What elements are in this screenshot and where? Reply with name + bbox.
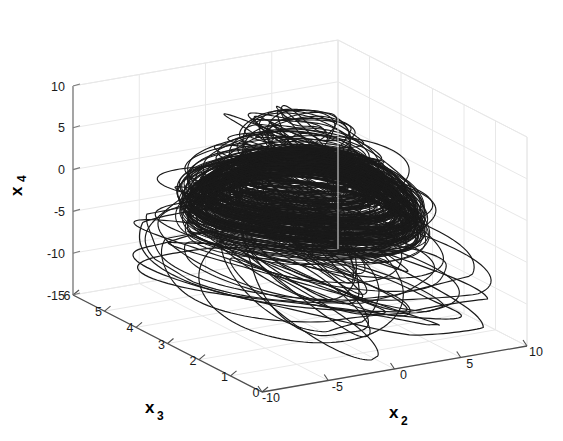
- tick-label-x3: 1: [221, 370, 228, 384]
- axis-title-x4-subscript: 4: [15, 175, 29, 182]
- tick-label-x4: 10: [51, 80, 65, 94]
- axis-title-x4-main: x: [7, 186, 26, 196]
- axis-title-x3: x 3: [145, 398, 164, 423]
- axis-title-x2-main: x: [389, 403, 399, 422]
- tick-label-x4: 0: [58, 163, 65, 177]
- plot-canvas: 6543210-10-505101050-5-10-15 x 4 x 3 x 2: [0, 0, 563, 441]
- axis-title-x4: x 4: [7, 175, 29, 196]
- axis-title-x2-subscript: 2: [401, 414, 408, 428]
- tick-label-x4: 5: [58, 121, 65, 135]
- axis-title-x3-main: x: [145, 398, 155, 417]
- tick-label-x3: 2: [190, 354, 197, 368]
- tick-label-x3: 3: [158, 338, 165, 352]
- tick-label-x3: 5: [95, 305, 102, 319]
- tick-label-x2: -5: [332, 380, 343, 394]
- tick-label-x4: -10: [47, 247, 65, 261]
- tick-label-x3: 4: [127, 321, 134, 335]
- tick-label-x4: -15: [47, 289, 65, 303]
- tick-label-x3: 0: [253, 386, 260, 400]
- figure-3d-phase-portrait: 6543210-10-505101050-5-10-15 x 4 x 3 x 2: [0, 0, 563, 441]
- axis-title-x3-subscript: 3: [157, 409, 164, 423]
- tick-label-x2: -10: [262, 391, 280, 405]
- tick-label-x2: 0: [400, 368, 407, 382]
- tick-label-x2: 5: [466, 357, 473, 371]
- tick-label-x2: 10: [529, 345, 543, 359]
- tick-label-x4: -5: [54, 205, 65, 219]
- axis-title-x2: x 2: [389, 403, 408, 428]
- trajectory-curves: [133, 106, 491, 360]
